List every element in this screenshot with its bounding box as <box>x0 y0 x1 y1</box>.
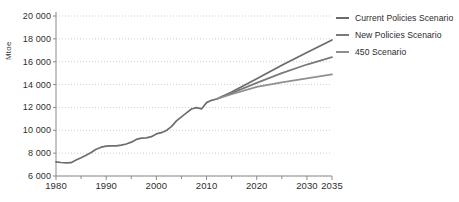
series-line <box>217 57 332 99</box>
legend-swatch-icon <box>336 17 349 19</box>
series-line <box>217 74 332 99</box>
legend-label: New Policies Scenario <box>355 30 442 40</box>
chart-legend: Current Policies ScenarioNew Policies Sc… <box>336 9 459 60</box>
legend-item[interactable]: 450 Scenario <box>336 43 459 60</box>
series-line <box>217 40 332 99</box>
energy-demand-chart: Mtoe 20 00018 00016 00014 00012 00010 00… <box>0 0 459 202</box>
legend-item[interactable]: New Policies Scenario <box>336 26 459 43</box>
legend-label: Current Policies Scenario <box>355 13 453 23</box>
legend-swatch-icon <box>336 51 349 53</box>
legend-label: 450 Scenario <box>355 47 406 57</box>
legend-item[interactable]: Current Policies Scenario <box>336 9 459 26</box>
legend-swatch-icon <box>336 34 349 36</box>
